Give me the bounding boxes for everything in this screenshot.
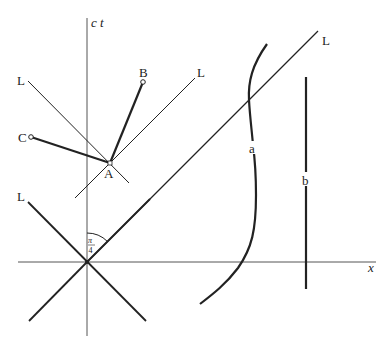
angle-denominator: 4 [89,246,93,255]
x-axis-label: x [367,260,374,275]
light-cone-label-lower: L [17,189,25,204]
event-B-label: B [139,65,148,80]
segment-A-C [31,137,110,163]
cone-A-upper-right [75,78,195,198]
worldline-a [200,44,267,304]
origin-dot [85,260,89,264]
event-A-marker [108,161,112,165]
light-cone-past-left [29,262,87,321]
event-C-marker [29,135,34,140]
cone-A-label-right: L [197,65,205,80]
worldline-a-label: a [249,141,255,156]
cone-A-upper-left [28,81,129,183]
light-cone-future-right-thick [87,199,150,262]
segment-A-B [110,82,143,163]
event-C-label: C [18,130,27,145]
spacetime-diagram: c t x L L π 4 L L A B C a b [0,0,392,344]
ct-axis-label: c t [91,15,104,30]
cone-A-label-left: L [17,73,25,88]
event-B-marker [141,80,146,85]
worldline-b-label: b [302,173,309,188]
angle-numerator: π [88,236,93,245]
light-cone-label-upper-right: L [322,33,330,48]
event-A-label: A [104,166,114,181]
